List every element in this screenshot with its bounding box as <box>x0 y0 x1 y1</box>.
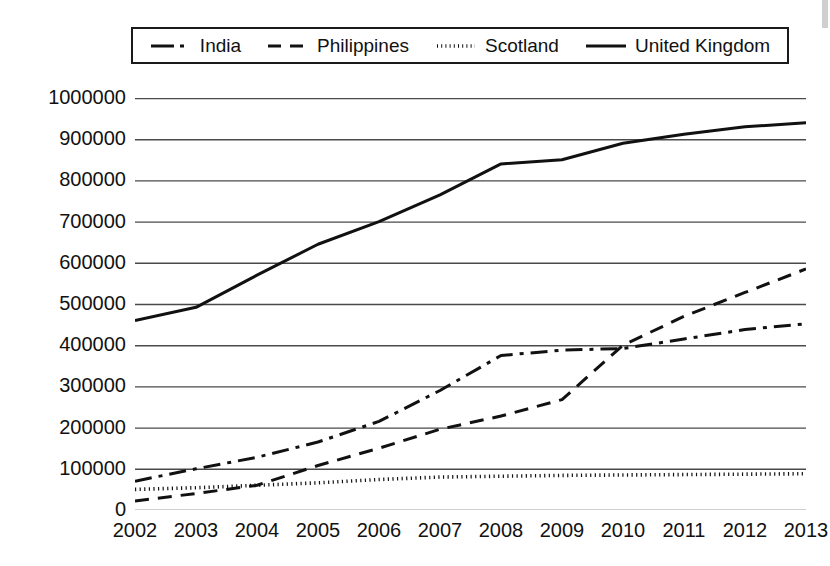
dashed-line-icon <box>267 40 309 52</box>
y-tick-label: 800000 <box>6 169 126 189</box>
y-tick-label: 100000 <box>6 458 126 478</box>
y-tick-label: 400000 <box>6 334 126 354</box>
y-tick-label: 900000 <box>6 128 126 148</box>
x-tick-label: 2007 <box>410 519 470 541</box>
y-tick-label: 600000 <box>6 252 126 272</box>
page-edge-artifact <box>822 0 828 28</box>
x-tick-label: 2010 <box>593 519 653 541</box>
legend-label-scotland: Scotland <box>485 36 559 55</box>
legend-item-india[interactable]: India <box>150 36 241 55</box>
x-tick-label: 2009 <box>532 519 592 541</box>
legend-item-scotland[interactable]: Scotland <box>435 36 559 55</box>
x-tick-label: 2003 <box>166 519 226 541</box>
legend-label-united-kingdom: United Kingdom <box>635 36 770 55</box>
x-axis-labels: 2002200320042005200620072008200920102011… <box>0 519 830 549</box>
chart-legend: India Philippines Scotland <box>131 27 789 64</box>
dotted-line-icon <box>435 40 477 52</box>
legend-item-philippines[interactable]: Philippines <box>267 36 409 55</box>
x-tick-label: 2002 <box>105 519 165 541</box>
x-tick-label: 2006 <box>349 519 409 541</box>
y-axis-labels: 1000000900000800000700000600000500000400… <box>0 0 126 566</box>
x-tick-label: 2011 <box>654 519 714 541</box>
solid-line-icon <box>585 40 627 52</box>
plot-area <box>135 98 806 510</box>
legend-item-united-kingdom[interactable]: United Kingdom <box>585 36 770 55</box>
y-tick-label: 700000 <box>6 211 126 231</box>
y-tick-label: 1000000 <box>6 87 126 107</box>
x-tick-label: 2008 <box>471 519 531 541</box>
y-tick-label: 500000 <box>6 293 126 313</box>
x-tick-label: 2005 <box>288 519 348 541</box>
chart-figure: India Philippines Scotland <box>0 0 830 566</box>
y-tick-label: 0 <box>6 499 126 519</box>
x-tick-label: 2004 <box>227 519 287 541</box>
dashdot-line-icon <box>150 40 192 52</box>
y-tick-label: 300000 <box>6 375 126 395</box>
legend-label-philippines: Philippines <box>317 36 409 55</box>
y-tick-label: 200000 <box>6 417 126 437</box>
legend-label-india: India <box>200 36 241 55</box>
x-tick-label: 2012 <box>715 519 775 541</box>
data-lines <box>135 98 806 510</box>
x-tick-label: 2013 <box>776 519 830 541</box>
